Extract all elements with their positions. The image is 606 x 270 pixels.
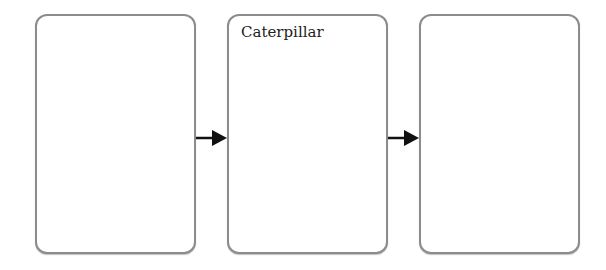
stage-box-2: Caterpillar (227, 14, 388, 254)
arrow-right-icon (388, 128, 420, 148)
stage-box-1 (35, 14, 196, 254)
stage-label-2: Caterpillar (241, 23, 324, 41)
arrow-right-icon (196, 128, 228, 148)
stage-box-3 (419, 14, 580, 254)
